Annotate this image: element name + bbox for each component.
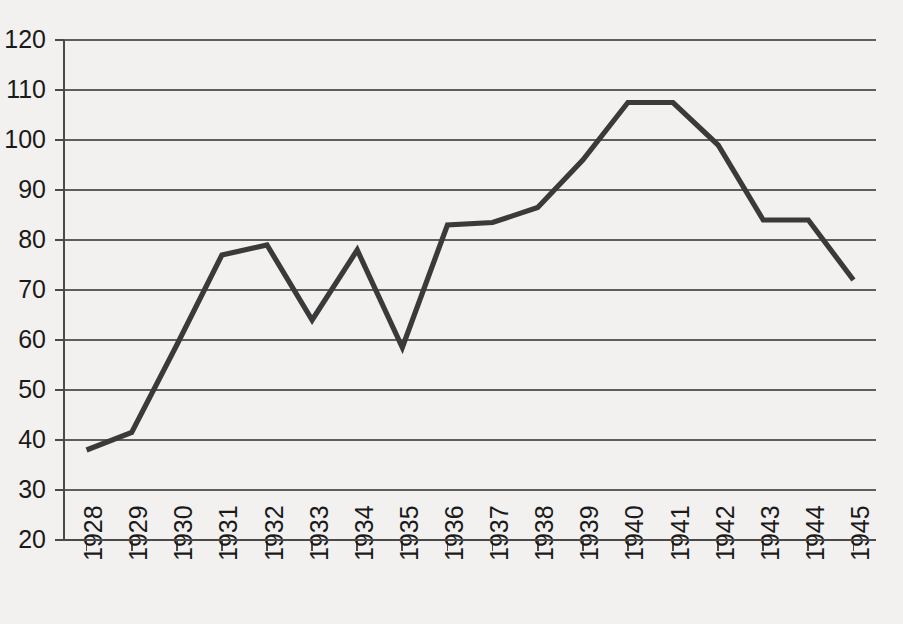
x-tick-label: 1940 [620,505,648,561]
x-tick-label: 1945 [846,505,874,561]
x-tick-label: 1943 [756,505,784,561]
x-tick-label: 1933 [305,505,333,561]
x-tick-label: 1928 [79,505,107,561]
y-tick-label: 110 [6,75,46,103]
x-tick-label: 1934 [350,505,378,561]
y-tick-label: 60 [18,325,46,353]
x-tick-label: 1944 [801,505,829,561]
line-chart: 2030405060708090100110120 19281929193019… [0,0,903,624]
x-tick-label: 1941 [666,505,694,561]
chart-container: 2030405060708090100110120 19281929193019… [0,0,903,624]
x-tick-label: 1937 [485,505,513,561]
x-tick-label: 1936 [440,505,468,561]
y-tick-label: 50 [18,375,46,403]
x-tick-label: 1935 [395,505,423,561]
y-tick-label: 120 [4,25,46,53]
y-tick-label: 20 [18,525,46,553]
x-tick-label: 1939 [575,505,603,561]
y-tick-label: 80 [18,225,46,253]
y-tick-label: 70 [18,275,46,303]
x-tick-label: 1942 [711,505,739,561]
x-tick-label: 1938 [530,505,558,561]
y-tick-label: 40 [18,425,46,453]
y-tick-label: 90 [18,175,46,203]
y-tick-label: 30 [18,475,46,503]
x-tick-label: 1930 [169,505,197,561]
x-tick-label: 1931 [214,505,242,561]
x-tick-label: 1929 [124,505,152,561]
x-tick-label: 1932 [260,505,288,561]
y-tick-label: 100 [4,125,46,153]
